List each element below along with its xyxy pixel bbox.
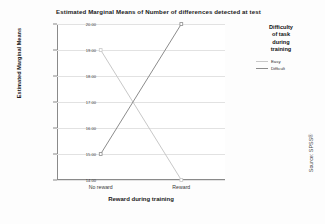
gridline: [57, 102, 225, 103]
legend-title-line: Difficulty: [252, 24, 310, 31]
y-tick-mark: [53, 128, 57, 129]
y-tick-label: 18.00: [86, 74, 96, 79]
legend-swatch-icon: [256, 68, 268, 69]
source-note: Source: SPSS®: [308, 123, 314, 183]
y-tick-mark: [53, 76, 57, 77]
legend-items: EasyDifficult: [252, 59, 318, 72]
y-tick-label: 20.00: [86, 22, 96, 27]
chart-title: Estimated Marginal Means of Number of di…: [46, 8, 271, 16]
y-tick-mark: [53, 180, 57, 181]
y-tick-mark: [53, 154, 57, 155]
y-tick-mark: [53, 50, 57, 51]
y-tick-mark: [53, 24, 57, 25]
gridline: [57, 180, 225, 181]
gridline: [57, 76, 225, 77]
y-tick-label: 16.00: [86, 126, 96, 131]
y-tick-label: 19.00: [86, 48, 96, 53]
chart-figure: Estimated Marginal Means of Number of di…: [0, 0, 325, 224]
y-tick-label: 17.00: [86, 100, 96, 105]
y-tick-label: 14.00: [86, 178, 96, 183]
x-tick-label: No reward: [89, 184, 113, 190]
y-tick-label: 15.00: [86, 152, 96, 157]
legend-title-line: training: [252, 46, 310, 53]
gridline: [57, 24, 225, 25]
gridline: [57, 50, 225, 51]
y-axis-title: Estimated Marginal Means: [16, 3, 22, 123]
x-tick-label: Reward: [172, 184, 190, 190]
legend-title: Difficultyof taskduringtraining: [252, 24, 310, 54]
gridline: [57, 154, 225, 155]
legend-item-easy[interactable]: Easy: [252, 59, 318, 65]
legend-label: Easy: [271, 59, 281, 64]
legend: Difficultyof taskduringtraining EasyDiff…: [252, 24, 318, 73]
legend-title-line: during: [252, 39, 310, 46]
gridline: [57, 128, 225, 129]
legend-item-difficult[interactable]: Difficult: [252, 66, 318, 72]
y-tick-mark: [53, 102, 57, 103]
legend-label: Difficult: [271, 66, 285, 71]
legend-title-line: of task: [252, 31, 310, 38]
legend-swatch-icon: [256, 61, 268, 62]
x-axis-title: Reward during training: [57, 196, 225, 202]
